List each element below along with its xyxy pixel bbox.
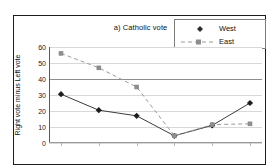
- chart-figure: a) Catholic vote West East: [0, 0, 277, 147]
- data-point-west-2: [134, 113, 140, 119]
- legend-label-east: East: [219, 37, 234, 46]
- data-point-east-4: [210, 122, 215, 127]
- y-axis-tick-label: 40: [38, 76, 46, 83]
- data-point-west-0: [58, 91, 64, 97]
- series-line-east: [61, 53, 250, 135]
- legend-marker-east-icon: [175, 36, 219, 48]
- legend-label-west: West: [219, 24, 236, 33]
- plot-area: [49, 47, 262, 143]
- y-axis-tick-label: 20: [38, 108, 46, 115]
- x-axis-tick: [250, 143, 251, 146]
- data-point-east-5: [248, 122, 253, 127]
- x-axis-tick: [174, 143, 175, 146]
- y-axis-tick-label: 0: [42, 140, 46, 147]
- y-axis-tick-label: 50: [38, 60, 46, 67]
- x-axis-tick: [99, 143, 100, 146]
- data-series-layer: [49, 47, 262, 143]
- legend-marker-west-icon: [175, 23, 219, 35]
- data-point-west-5: [247, 100, 253, 106]
- x-axis-tick: [61, 143, 62, 146]
- data-point-east-1: [97, 66, 102, 71]
- chart-legend: West East: [174, 19, 266, 49]
- y-axis-tick-label: 60: [38, 44, 46, 51]
- data-point-east-0: [59, 51, 64, 56]
- legend-item-west: West: [175, 22, 265, 35]
- y-axis-tick-label: 30: [38, 92, 46, 99]
- y-axis-title: Right vote minus Left vote: [14, 47, 26, 143]
- legend-sample-east: [175, 36, 219, 48]
- x-axis-tick: [137, 143, 138, 146]
- data-point-east-3: [172, 134, 177, 139]
- data-point-east-2: [134, 85, 139, 90]
- y-axis-tick-labels: 6050403020100: [30, 47, 46, 143]
- y-axis-tick-label: 10: [38, 124, 46, 131]
- gridline: [49, 143, 262, 144]
- series-line-west: [61, 94, 250, 136]
- data-point-west-1: [96, 107, 102, 113]
- x-axis-tick: [212, 143, 213, 146]
- legend-sample-west: [175, 23, 219, 35]
